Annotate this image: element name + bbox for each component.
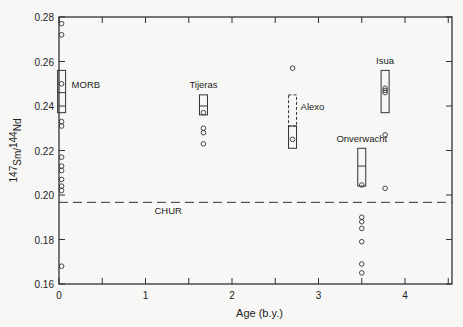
y-tick-label: 0.28 bbox=[35, 12, 55, 23]
morb-data-point bbox=[59, 124, 64, 129]
scatter-chart: 0.160.180.200.220.240.260.2801234Age (b.… bbox=[0, 0, 463, 327]
tijeras-data-point bbox=[201, 126, 206, 131]
y-tick-label: 0.22 bbox=[35, 146, 55, 157]
onverwacht-data-point bbox=[359, 239, 364, 244]
morb-data-point bbox=[59, 168, 64, 173]
y-axis-title: 147Sm/144Nd bbox=[8, 119, 23, 183]
tijeras-data-point bbox=[201, 110, 206, 115]
isua-label: Isua bbox=[376, 55, 395, 66]
x-tick-label: 4 bbox=[402, 290, 408, 301]
morb-data-point bbox=[59, 177, 64, 182]
y-tick-label: 0.18 bbox=[35, 235, 55, 246]
tijeras-data-point bbox=[201, 142, 206, 147]
onverwacht-data-point bbox=[359, 271, 364, 276]
x-tick-label: 2 bbox=[229, 290, 235, 301]
onverwacht-data-point bbox=[359, 215, 364, 220]
morb-data-point bbox=[59, 33, 64, 38]
x-tick-label: 1 bbox=[143, 290, 149, 301]
alexo-data-point bbox=[290, 137, 295, 142]
morb-data-point bbox=[59, 155, 64, 160]
morb-data-point bbox=[59, 184, 64, 189]
morb-data-point bbox=[59, 81, 64, 86]
tijeras-data-point bbox=[201, 130, 206, 135]
morb-label: MORB bbox=[72, 79, 101, 90]
onverwacht-data-point bbox=[359, 226, 364, 231]
x-tick-label: 0 bbox=[56, 290, 62, 301]
tijeras-range-box bbox=[199, 95, 207, 115]
tijeras-label: Tijeras bbox=[189, 79, 217, 90]
y-tick-label: 0.24 bbox=[35, 101, 55, 112]
alexo-label: Alexo bbox=[301, 101, 325, 112]
alexo-dashed-range-box bbox=[289, 95, 297, 126]
x-axis-title: Age (b.y.) bbox=[236, 307, 283, 319]
isua-data-point bbox=[383, 186, 388, 191]
onverwacht-range-box bbox=[358, 148, 366, 186]
morb-data-point bbox=[59, 164, 64, 169]
morb-data-point bbox=[59, 21, 64, 26]
onverwacht-data-point bbox=[359, 262, 364, 267]
onverwacht-data-point bbox=[359, 219, 364, 224]
alexo-data-point bbox=[290, 66, 295, 71]
y-tick-label: 0.26 bbox=[35, 57, 55, 68]
morb-data-point bbox=[59, 188, 64, 193]
morb-data-point bbox=[59, 119, 64, 124]
x-tick-label: 3 bbox=[316, 290, 322, 301]
y-tick-label: 0.16 bbox=[35, 279, 55, 290]
plot-area: 0.160.180.200.220.240.260.2801234Age (b.… bbox=[8, 12, 452, 319]
onverwacht-label: Onverwacht bbox=[336, 133, 387, 144]
chur-label: CHUR bbox=[154, 205, 182, 216]
isua-range-box bbox=[381, 70, 389, 112]
morb-data-point bbox=[59, 264, 64, 269]
y-tick-label: 0.20 bbox=[35, 190, 55, 201]
